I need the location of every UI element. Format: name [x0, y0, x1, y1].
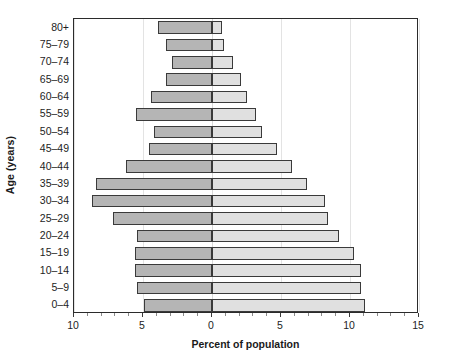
x-tick-major — [418, 313, 419, 317]
bar-row — [74, 160, 417, 172]
bar-row — [74, 178, 417, 190]
bar-left-75-79 — [166, 39, 212, 51]
bar-left-5-9 — [137, 282, 212, 294]
bar-left-20-24 — [137, 230, 212, 242]
y-tick-label: 5–9 — [17, 281, 69, 293]
bar-right-80+ — [212, 21, 222, 33]
x-tick-major — [280, 313, 281, 317]
bar-right-45-49 — [212, 143, 277, 155]
y-tick-label: 40–44 — [17, 160, 69, 172]
y-tick-label: 30–34 — [17, 194, 69, 206]
x-tick-minor — [390, 313, 391, 316]
bar-right-5-9 — [212, 282, 361, 294]
bar-row — [74, 195, 417, 207]
plot-area — [73, 18, 418, 313]
bar-right-40-44 — [212, 160, 292, 172]
x-tick-minor — [225, 313, 226, 316]
bar-row — [74, 230, 417, 242]
bar-row — [74, 299, 417, 311]
bar-left-25-29 — [113, 212, 212, 224]
bar-right-25-29 — [212, 212, 328, 224]
bar-left-55-59 — [136, 108, 212, 120]
bar-row — [74, 264, 417, 276]
bar-right-15-19 — [212, 247, 354, 259]
bar-row — [74, 282, 417, 294]
x-tick-minor — [294, 313, 295, 316]
bar-right-60-64 — [212, 91, 247, 103]
x-tick-label: 0 — [208, 319, 214, 331]
y-tick-label: 15–19 — [17, 246, 69, 258]
bar-left-35-39 — [96, 178, 212, 190]
x-tick-minor — [404, 313, 405, 316]
plot-inner — [74, 19, 417, 312]
bar-row — [74, 21, 417, 33]
x-tick-minor — [87, 313, 88, 316]
bar-right-70-74 — [212, 56, 233, 68]
y-tick-label: 25–29 — [17, 212, 69, 224]
population-pyramid-chart: Age (years) 0–45–910–1415–1920–2425–2930… — [0, 0, 451, 362]
x-tick-major — [142, 313, 143, 317]
bar-row — [74, 212, 417, 224]
x-tick-minor — [308, 313, 309, 316]
y-tick-label: 70–74 — [17, 55, 69, 67]
y-tick-label: 45–49 — [17, 142, 69, 154]
x-tick-minor — [183, 313, 184, 316]
x-tick-minor — [128, 313, 129, 316]
bar-left-70-74 — [172, 56, 212, 68]
y-tick-label: 75–79 — [17, 38, 69, 50]
bar-row — [74, 91, 417, 103]
bar-left-80+ — [158, 21, 212, 33]
bar-right-65-69 — [212, 73, 241, 85]
bar-right-0-4 — [212, 299, 365, 311]
y-tick-label: 65–69 — [17, 73, 69, 85]
x-tick-minor — [114, 313, 115, 316]
bar-left-0-4 — [144, 299, 212, 311]
bar-right-55-59 — [212, 108, 256, 120]
x-tick-minor — [252, 313, 253, 316]
bar-row — [74, 108, 417, 120]
x-tick-minor — [321, 313, 322, 316]
x-tick-major — [211, 313, 212, 317]
bar-row — [74, 247, 417, 259]
x-axis-tick-labels: 105051015 — [73, 319, 418, 335]
bar-left-45-49 — [149, 143, 212, 155]
gridline — [419, 19, 420, 312]
x-tick-minor — [266, 313, 267, 316]
x-tick-major — [73, 313, 74, 317]
bar-row — [74, 56, 417, 68]
y-tick-label: 50–54 — [17, 125, 69, 137]
bar-right-20-24 — [212, 230, 339, 242]
y-tick-label: 0–4 — [17, 298, 69, 310]
y-tick-label: 55–59 — [17, 107, 69, 119]
x-tick-minor — [335, 313, 336, 316]
y-axis-tick-labels: 0–45–910–1415–1920–2425–2930–3435–3940–4… — [14, 18, 69, 313]
x-tick-minor — [377, 313, 378, 316]
bar-left-50-54 — [154, 126, 212, 138]
x-tick-minor — [239, 313, 240, 316]
x-tick-minor — [363, 313, 364, 316]
x-axis-title: Percent of population — [73, 338, 418, 350]
bar-right-35-39 — [212, 178, 307, 190]
bar-right-10-14 — [212, 264, 361, 276]
bar-right-50-54 — [212, 126, 262, 138]
bar-right-75-79 — [212, 39, 224, 51]
x-tick-label: 15 — [412, 319, 424, 331]
bar-row — [74, 73, 417, 85]
bar-right-30-34 — [212, 195, 325, 207]
bar-row — [74, 39, 417, 51]
bar-row — [74, 126, 417, 138]
bar-row — [74, 143, 417, 155]
x-tick-label: 5 — [139, 319, 145, 331]
y-tick-label: 35–39 — [17, 177, 69, 189]
x-tick-label: 10 — [343, 319, 355, 331]
x-tick-label: 5 — [277, 319, 283, 331]
y-tick-label: 20–24 — [17, 229, 69, 241]
bar-left-40-44 — [126, 160, 212, 172]
x-tick-label: 10 — [67, 319, 79, 331]
x-tick-minor — [170, 313, 171, 316]
bar-left-65-69 — [166, 73, 212, 85]
bar-left-15-19 — [135, 247, 212, 259]
y-tick-label: 60–64 — [17, 90, 69, 102]
bar-left-10-14 — [135, 264, 212, 276]
y-tick-label: 10–14 — [17, 264, 69, 276]
